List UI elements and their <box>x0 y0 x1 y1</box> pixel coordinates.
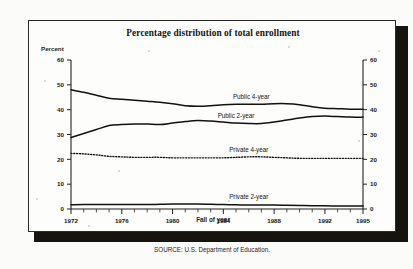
scan-speck <box>288 46 290 48</box>
series-line-private-2-year <box>71 204 363 206</box>
series-label-public-2-year: Public 2-year <box>218 112 255 120</box>
left-y-tick-label: 40 <box>57 106 64 113</box>
left-y-tick-label: 20 <box>57 156 64 163</box>
source-note: SOURCE: U.S. Department of Education. <box>28 246 396 253</box>
series-line-private-4-year <box>71 153 363 158</box>
scan-speck <box>88 225 90 227</box>
scan-speck <box>44 80 46 82</box>
right-y-tick-label: 40 <box>370 106 377 113</box>
chart-title: Percentage distribution of total enrollm… <box>29 28 397 38</box>
series-line-public-2-year <box>71 116 363 137</box>
scan-speck <box>148 50 150 52</box>
right-y-tick-label: 20 <box>370 156 377 163</box>
right-y-tick-label: 60 <box>370 56 377 63</box>
series-line-public-4-year <box>71 90 363 109</box>
right-y-tick-label: 30 <box>370 131 377 138</box>
scan-speck <box>378 50 380 52</box>
series-label-private-2-year: Private 2-year <box>229 193 268 201</box>
scan-speck <box>228 200 230 202</box>
scan-speck <box>36 198 38 200</box>
series-label-public-4-year: Public 4-year <box>233 93 270 101</box>
chart-plate: Percentage distribution of total enrollm… <box>28 20 396 232</box>
left-y-tick-label: 0 <box>61 205 65 212</box>
scan-speck <box>118 170 120 172</box>
right-y-tick-label: 10 <box>370 180 377 187</box>
x-axis-title: Fall of year <box>29 216 397 223</box>
left-y-tick-label: 30 <box>57 131 64 138</box>
left-y-tick-label: 60 <box>57 56 64 63</box>
left-y-tick-label: 50 <box>57 81 64 88</box>
series-label-private-4-year: Private 4-year <box>229 146 268 154</box>
right-y-tick-label: 50 <box>370 81 377 88</box>
y-axis-title: Percent <box>41 45 64 52</box>
right-y-tick-label: 0 <box>370 205 374 212</box>
left-y-tick-label: 10 <box>57 180 64 187</box>
line-chart-plot: 0102030405060010203040506019721976198019… <box>29 21 397 233</box>
figure-container: Percentage distribution of total enrollm… <box>0 0 413 269</box>
scan-speck <box>358 140 360 142</box>
